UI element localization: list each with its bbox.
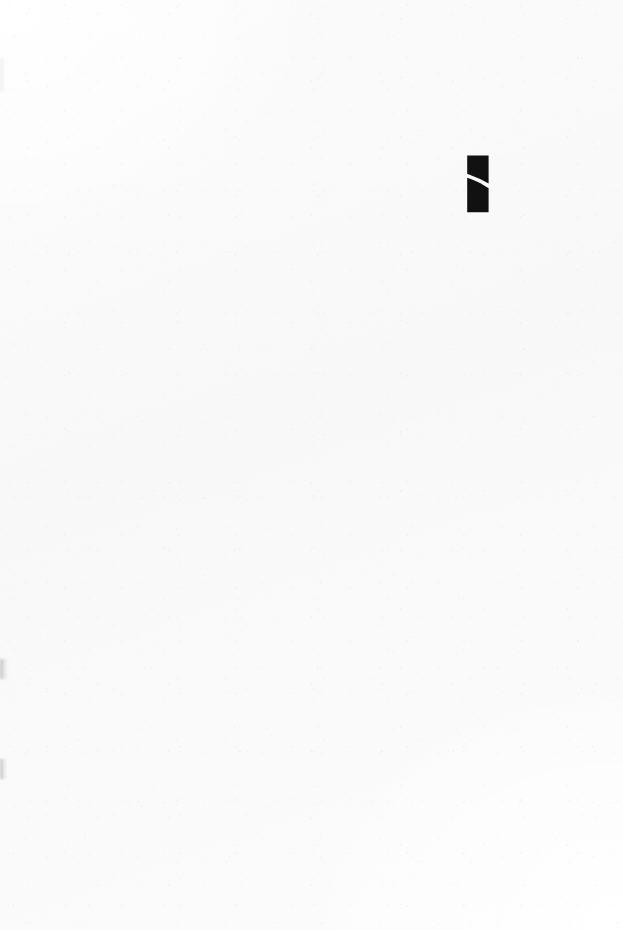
ink-mark-svg xyxy=(466,155,490,213)
ink-mark-glyph xyxy=(466,155,490,213)
edge-artifact-top xyxy=(0,58,7,92)
paper-grain-texture xyxy=(0,0,623,930)
scanned-page xyxy=(0,0,623,930)
edge-artifact-lower xyxy=(0,759,8,779)
edge-artifact-middle xyxy=(0,659,9,679)
ink-mark-lower-block xyxy=(467,178,488,212)
